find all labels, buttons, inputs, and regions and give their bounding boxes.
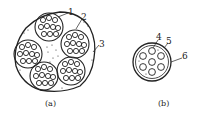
callout-4: 4: [156, 32, 162, 42]
outer-jacket-a: [15, 12, 95, 91]
caption-a: (a): [45, 99, 56, 108]
callout-1: 1: [68, 7, 74, 17]
sub-bundle: [61, 30, 89, 58]
callout-6: 6: [182, 51, 188, 61]
sub-bundle: [35, 13, 63, 41]
fibers-b: [140, 48, 165, 76]
sub-bundle: [30, 62, 58, 90]
caption-b: (b): [158, 99, 169, 108]
callout-2: 2: [81, 12, 87, 22]
sub-bundles: [14, 13, 89, 90]
sub-bundle: [57, 57, 85, 85]
panel-b: 4 5 6 (b): [133, 32, 188, 108]
callout-5: 5: [166, 36, 172, 46]
fiber-bundle-diagram: 1 2 3 (a) 4 5 6 (b): [0, 0, 203, 117]
panel-a: 1 2 3 (a): [14, 7, 105, 108]
callout-3: 3: [99, 39, 105, 49]
inner-sheath-b: [136, 46, 169, 79]
